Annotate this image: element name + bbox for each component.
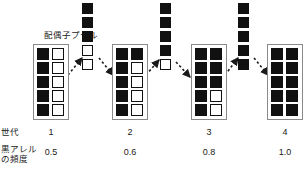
- gamete-square-black: [160, 3, 171, 14]
- gamete-square-black: [160, 45, 171, 56]
- gamete-square-black: [238, 31, 249, 42]
- gamete-square-white: [160, 59, 171, 70]
- allele-square-black: [271, 104, 283, 116]
- gamete-square-black: [160, 31, 171, 42]
- gamete-square-white: [82, 45, 93, 56]
- gamete-square-black: [238, 59, 249, 70]
- allele-square-white: [52, 62, 64, 74]
- population-box-generation-4: [267, 44, 303, 120]
- allele-grid-generation-4: [271, 48, 301, 118]
- allele-square-black: [116, 76, 128, 88]
- allele-square-black: [37, 90, 49, 102]
- population-box-generation-3: [191, 44, 227, 120]
- allele-square-black: [271, 76, 283, 88]
- allele-square-black: [210, 76, 222, 88]
- allele-square-white: [131, 104, 143, 116]
- gamete-square-white: [82, 59, 93, 70]
- allele-square-black: [195, 90, 207, 102]
- generation-number-4: 4: [265, 127, 305, 137]
- generation-number-3: 3: [189, 127, 229, 137]
- allele-square-black: [286, 62, 298, 74]
- gamete-square-black: [238, 3, 249, 14]
- allele-square-black: [116, 62, 128, 74]
- allele-square-black: [116, 48, 128, 60]
- allele-square-black: [37, 76, 49, 88]
- allele-grid-generation-1: [37, 48, 67, 118]
- gamete-square-black: [82, 17, 93, 28]
- allele-frequency-generation-2: 0.6: [110, 147, 150, 157]
- gamete-square-black: [82, 31, 93, 42]
- allele-square-black: [37, 62, 49, 74]
- allele-square-black: [286, 104, 298, 116]
- arrow-gen1-to-pool1: [68, 58, 82, 75]
- allele-square-white: [131, 76, 143, 88]
- arrow-pool2-to-gen3: [176, 62, 190, 77]
- allele-square-black: [286, 90, 298, 102]
- gamete-square-black: [238, 45, 249, 56]
- population-box-generation-1: [33, 44, 69, 120]
- generation-number-2: 2: [110, 127, 150, 137]
- allele-square-black: [271, 90, 283, 102]
- allele-square-white: [52, 48, 64, 60]
- allele-square-black: [271, 48, 283, 60]
- allele-square-black: [195, 104, 207, 116]
- allele-square-black: [210, 62, 222, 74]
- arrow-pool3-to-gen4: [254, 58, 268, 75]
- allele-square-black: [271, 62, 283, 74]
- gamete-square-black: [238, 17, 249, 28]
- allele-grid-generation-3: [195, 48, 225, 118]
- arrow-pool1-to-gen2: [99, 58, 113, 75]
- allele-square-white: [210, 104, 222, 116]
- allele-frequency-generation-3: 0.8: [189, 147, 229, 157]
- row-label-allele-frequency-line2: の頻度: [1, 154, 28, 165]
- allele-square-black: [286, 48, 298, 60]
- genetic-drift-figure: 配偶子プール 世代 黒アレル の頻度 1 2 3 4 0.5 0.6 0.8 1…: [0, 0, 306, 169]
- allele-square-black: [195, 62, 207, 74]
- allele-frequency-generation-4: 1.0: [265, 147, 305, 157]
- allele-square-black: [195, 76, 207, 88]
- allele-square-white: [52, 104, 64, 116]
- gamete-square-black: [82, 3, 93, 14]
- allele-frequency-generation-1: 0.5: [31, 147, 71, 157]
- allele-square-black: [37, 48, 49, 60]
- gamete-square-black: [160, 17, 171, 28]
- allele-square-black: [116, 104, 128, 116]
- allele-square-black: [286, 76, 298, 88]
- generation-number-1: 1: [31, 127, 71, 137]
- allele-grid-generation-2: [116, 48, 146, 118]
- allele-square-black: [131, 48, 143, 60]
- allele-square-white: [131, 62, 143, 74]
- allele-square-black: [210, 48, 222, 60]
- allele-square-white: [131, 90, 143, 102]
- allele-square-black: [116, 90, 128, 102]
- allele-square-white: [52, 90, 64, 102]
- population-box-generation-2: [112, 44, 148, 120]
- allele-square-black: [195, 48, 207, 60]
- allele-square-white: [210, 90, 222, 102]
- allele-square-white: [52, 76, 64, 88]
- allele-square-black: [37, 104, 49, 116]
- row-label-generation: 世代: [1, 127, 19, 138]
